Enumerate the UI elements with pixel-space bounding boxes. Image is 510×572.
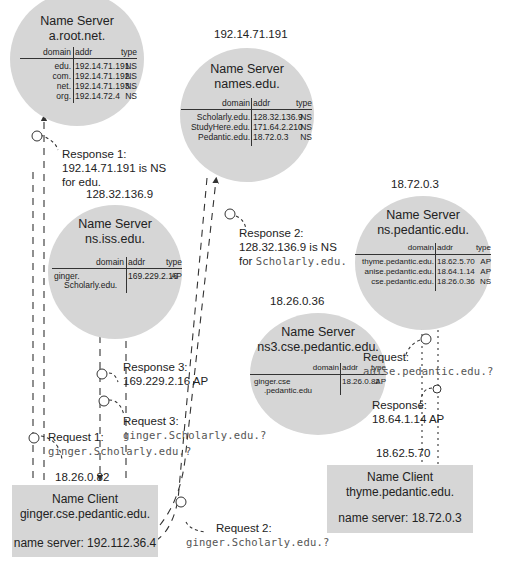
server-hostname: ns.iss.edu.: [48, 232, 182, 247]
server-title: Name Server: [180, 62, 314, 77]
name-client-thyme: Name Client thyme.pedantic.edu. name ser…: [327, 465, 473, 533]
client-title: Name Client: [327, 470, 473, 485]
client-ip-thyme: 18.62.5.70: [376, 447, 430, 459]
response1-label: Response 1: 192.14.71.191 is NS for edu.: [62, 147, 166, 189]
zone-table: domain addr type Scholarly.edu. 128.32.1…: [181, 98, 312, 146]
table-row: thyme.pedantic.edu. 18.62.5.70 AP: [355, 257, 491, 267]
table-row: ginger.cse .pedantic.edu 18.26.0.82 AP: [250, 377, 386, 397]
table-row: anise.pedantic.edu. 18.64.1.14 AP: [355, 267, 491, 277]
table-row: org. 192.14.72.4 NS: [20, 91, 137, 101]
client-name-server: name server: 192.112.36.4: [12, 536, 158, 551]
client-hostname: thyme.pedantic.edu.: [327, 485, 473, 500]
client-hostname: ginger.cse.pedantic.edu.: [12, 507, 158, 522]
server-title: Name Server: [355, 208, 491, 223]
table-row: cse.pedantic.edu. 18.26.0.36 NS: [355, 277, 491, 287]
client-title: Name Client: [12, 492, 158, 507]
server-ip-cse: 18.26.0.36: [270, 295, 324, 307]
server-ip-pedantic: 18.72.0.3: [391, 178, 439, 190]
table-row: Pedantic.edu. 18.72.0.3 NS: [181, 132, 312, 142]
table-row: net. 192.14.71.193 NS: [20, 81, 137, 91]
col-type: type: [121, 47, 137, 57]
table-row: com. 192.14.71.192 NS: [20, 71, 137, 81]
name-server-pedantic: Name Server ns.pedantic.edu. domain addr…: [355, 196, 491, 330]
request-anise-label: Request: anise.pedantic.edu.?: [363, 350, 493, 378]
client-name-server: name server: 18.72.0.3: [327, 511, 473, 526]
server-hostname: a.root.net.: [10, 29, 144, 44]
zone-table: domain addr type thyme.pedantic.edu. 18.…: [355, 243, 491, 291]
zone-table: domain addr type ginger. Scholarly.edu. …: [52, 257, 182, 293]
server-title: Name Server: [48, 217, 182, 232]
response-anise-label: Response: 18.64.1.14 AP: [372, 398, 444, 426]
table-row: edu. 192.14.71.191 NS: [20, 61, 137, 71]
response2-label: Response 2: 128.32.136.9 is NS for Schol…: [239, 226, 347, 268]
server-title: Name Server: [10, 14, 144, 29]
col-addr: addr: [75, 47, 92, 57]
server-title: Name Server: [250, 325, 386, 340]
table-row: Scholarly.edu. 128.32.136.9 NS: [181, 112, 312, 122]
client-ip-ginger: 18.26.0.82: [55, 471, 109, 483]
col-domain: domain: [43, 47, 71, 57]
request1-label: Request 1: ginger.Scholarly.edu.?: [48, 430, 191, 458]
name-client-ginger: Name Client ginger.cse.pedantic.edu. nam…: [12, 485, 158, 557]
name-server-edu: Name Server names.edu. domain addr type …: [180, 48, 314, 182]
server-ip-edu: 192.14.71.191: [214, 28, 288, 40]
zone-table: domain addr type edu. 192.14.71.191 NS c…: [20, 47, 137, 103]
table-row: ginger. Scholarly.edu. 169.229.2.16 AP: [52, 271, 182, 293]
name-server-iss: Name Server ns.iss.edu. domain addr type…: [48, 205, 182, 339]
response3-label: Response 3: 169.229.2.16 AP: [123, 360, 208, 388]
request2-label: Request 2: ginger.Scholarly.edu.?: [186, 521, 329, 549]
table-row: StudyHere.edu. 171.64.2.210 NS: [181, 122, 312, 132]
server-hostname: names.edu.: [180, 77, 314, 92]
server-ip-iss: 128.32.136.9: [86, 188, 153, 200]
server-hostname: ns.pedantic.edu.: [355, 223, 491, 238]
